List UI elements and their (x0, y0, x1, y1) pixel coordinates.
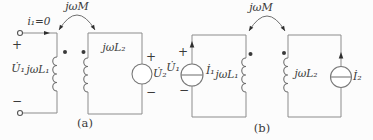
port-plus-sign: + (178, 46, 188, 58)
primary-current-label: i₁=0 (27, 16, 50, 27)
inductor-coil-l2 (284, 58, 288, 92)
arc-arrow-right-icon (91, 25, 95, 30)
polarity-dot-icon (82, 50, 86, 54)
mutual-inductance-label: jωM (249, 2, 273, 13)
source-plus-sign: + (146, 51, 156, 63)
inductor1-label: jωL₁ (27, 64, 50, 75)
inductor2-label: jωL₂ (295, 68, 318, 79)
terminal-top-icon (18, 31, 23, 36)
mutual-coupling-arc (59, 15, 95, 30)
arc-arrow-right-icon (281, 26, 285, 31)
port-minus-sign: − (179, 84, 189, 96)
polarity-dot-icon (63, 50, 67, 54)
caption-a: (a) (77, 118, 93, 130)
arc-arrow-left-icon (59, 25, 63, 30)
voltage-source-icon (132, 64, 152, 84)
current-source1-label: İ₁ (206, 65, 215, 76)
arc-arrow-left-icon (249, 26, 253, 31)
polarity-dot-icon (282, 51, 286, 55)
primary-voltage-label: U̇₁ (11, 63, 25, 74)
current-arrow-icon (44, 31, 50, 35)
inductor-coil-l1 (242, 58, 246, 92)
inductor-coil-l2 (84, 58, 88, 92)
secondary-voltage-label: U̇₂ (153, 68, 167, 79)
terminal-bottom-icon (18, 111, 23, 116)
current-arrow-icon (339, 52, 344, 59)
mutual-inductance-figure: jωM i₁=0 + − U̇₁ jωL₁ jωL₂ + − U̇₂ (a) j… (0, 0, 373, 140)
current-arrow-icon (190, 41, 195, 48)
port-plus-sign: + (12, 39, 22, 51)
mutual-inductance-label: jωM (65, 1, 89, 12)
mutual-coupling-arc (249, 16, 285, 31)
current-source2-label: İ₂ (353, 71, 362, 82)
inductor2-label: jωL₂ (103, 42, 126, 53)
primary-voltage-label: U̇₁ (166, 62, 180, 73)
port-minus-sign: − (12, 95, 22, 107)
polarity-dot-icon (249, 52, 253, 56)
inductor-coil-l1 (53, 57, 57, 91)
caption-b: (b) (254, 123, 270, 135)
inductor1-label: jωL₁ (216, 69, 239, 80)
source-minus-sign: − (146, 86, 156, 98)
